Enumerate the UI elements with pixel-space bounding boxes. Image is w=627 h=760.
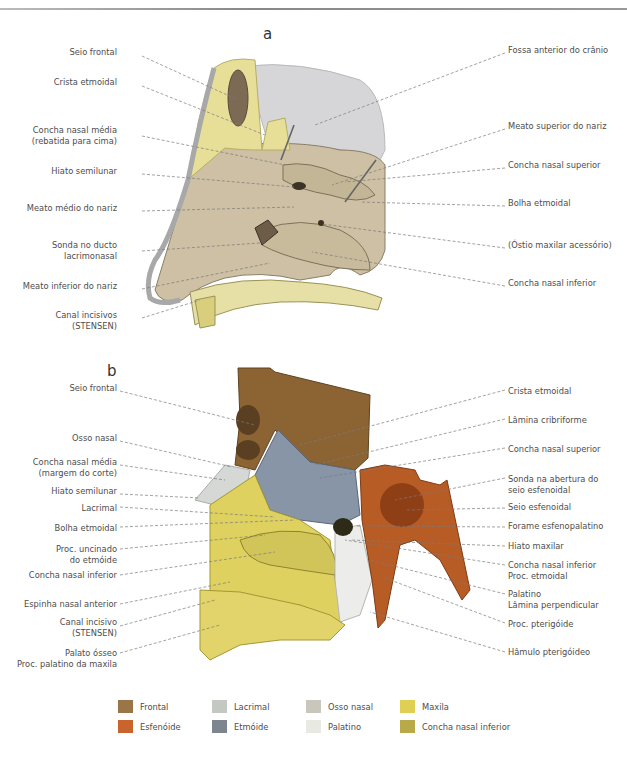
skeletal-lateral-wall-illustration	[195, 368, 470, 660]
label-forame-esfenopalatino-b: Forame esfenopalatino	[508, 521, 603, 532]
label-concha-nasal-media-a: Concha nasal média(rebatida para cima)	[32, 125, 117, 147]
label-hamulo-pterigoideo-b: Hâmulo pterigóideo	[508, 647, 590, 658]
panel-b-letter: b	[107, 362, 117, 380]
label-seio-esfenoidal-b: Seio esfenoidal	[508, 502, 571, 513]
label-bolha-etmoidal-a: Bolha etmoidal	[508, 198, 571, 209]
legend-item-concha-inferior: Concha nasal inferior	[400, 720, 510, 733]
label-bolha-etmoidal-b: Bolha etmoidal	[54, 523, 117, 534]
label-proc-uncinado-b: Proc. uncinadodo etmóide	[56, 544, 117, 566]
swatch-osso-nasal	[306, 700, 321, 713]
legend-item-maxila: Maxila	[400, 700, 449, 713]
swatch-maxila	[400, 700, 415, 713]
label-concha-inferior-proc-b: Concha nasal inferiorProc. etmoidal	[508, 560, 596, 582]
swatch-esfenoide	[118, 720, 133, 733]
label-canal-incisivo-b: Canal incisivo(STENSEN)	[60, 617, 117, 639]
swatch-frontal	[118, 700, 133, 713]
label-proc-pterigoide-b: Proc. pterigóide	[508, 619, 573, 630]
label-meato-medio-a: Meato médio do nariz	[27, 203, 117, 214]
label-concha-inferior-a: Concha nasal inferior	[508, 278, 596, 289]
label-palato-osseo-b: Palato ósseoProc. palatino da maxila	[17, 648, 117, 670]
label-concha-superior-a: Concha nasal superior	[508, 160, 601, 171]
label-seio-frontal-a: Seio frontal	[69, 47, 117, 58]
bone-color-legend: Frontal Esfenóide Lacrimal Etmóide Osso …	[118, 700, 538, 740]
legend-item-lacrimal: Lacrimal	[212, 700, 269, 713]
legend-item-palatino: Palatino	[306, 720, 361, 733]
label-crista-etmoidal-a: Crista etmoidal	[54, 77, 117, 88]
swatch-palatino	[306, 720, 321, 733]
label-concha-superior-b: Concha nasal superior	[508, 444, 601, 455]
label-fossa-anterior-a: Fossa anterior do crânio	[508, 45, 608, 56]
label-sonda-ducto-a: Sonda no ductolacrimonasal	[52, 240, 117, 262]
label-ostio-maxilar-a: (Óstio maxilar acessório)	[508, 240, 612, 251]
label-concha-media-b: Concha nasal média(margem do corte)	[33, 457, 117, 479]
label-crista-etmoidal-b: Crista etmoidal	[508, 386, 571, 397]
swatch-lacrimal	[212, 700, 227, 713]
legend-item-esfenoide: Esfenóide	[118, 720, 181, 733]
panel-a-letter: a	[263, 25, 272, 43]
label-lacrimal-b: Lacrimal	[82, 503, 117, 514]
swatch-etmoide	[212, 720, 227, 733]
label-canal-incisivos-a: Canal incisivos(STENSEN)	[55, 310, 117, 332]
legend-item-osso-nasal: Osso nasal	[306, 700, 373, 713]
anatomy-illustrations	[0, 0, 627, 760]
label-sonda-abertura-b: Sonda na abertura doseio esfenoidal	[508, 474, 598, 496]
label-espinha-nasal-b: Espinha nasal anterior	[24, 599, 117, 610]
swatch-concha-inferior	[400, 720, 415, 733]
label-concha-inferior-b: Concha nasal inferior	[29, 570, 117, 581]
label-hiato-semilunar-a: Hiato semilunar	[51, 166, 117, 177]
label-lamina-cribriforme-b: Lâmina cribriforme	[508, 415, 587, 426]
label-palatino-lamina-b: PalatinoLâmina perpendicular	[508, 589, 599, 611]
label-hiato-semilunar-b: Hiato semilunar	[51, 486, 117, 497]
label-meato-superior-a: Meato superior do nariz	[508, 121, 607, 132]
legend-item-frontal: Frontal	[118, 700, 168, 713]
label-meato-inferior-a: Meato inferior do nariz	[23, 281, 117, 292]
label-seio-frontal-b: Seio frontal	[69, 383, 117, 394]
label-osso-nasal-b: Osso nasal	[72, 433, 117, 444]
legend-item-etmoide: Etmóide	[212, 720, 268, 733]
lateral-nasal-wall-illustration	[148, 59, 385, 328]
label-hiato-maxilar-b: Hiato maxilar	[508, 541, 564, 552]
